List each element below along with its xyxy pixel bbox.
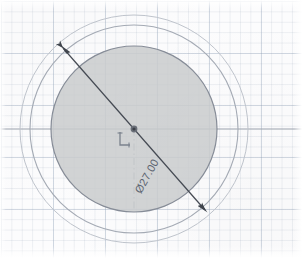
leader-arrow-start-icon bbox=[61, 46, 71, 54]
sketch-canvas[interactable]: Ø27.00 bbox=[0, 0, 302, 258]
leader-arrow-end-icon bbox=[198, 204, 208, 212]
sketch-center-point-core bbox=[132, 127, 135, 130]
cad-sketch-viewport[interactable]: Ø27.00 bbox=[0, 0, 302, 258]
